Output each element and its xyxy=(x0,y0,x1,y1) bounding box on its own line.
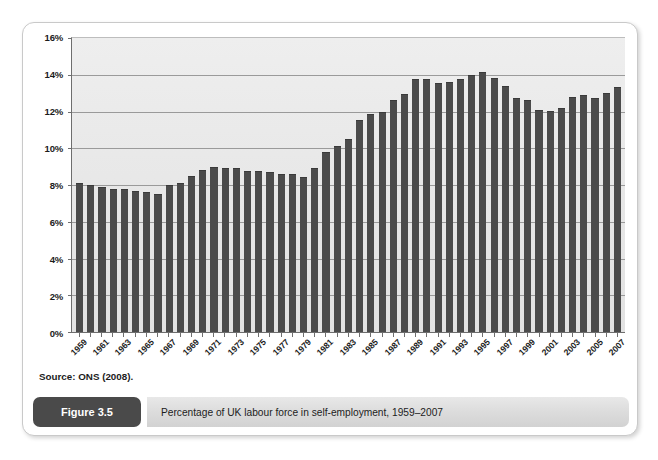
bar-slot xyxy=(489,38,500,332)
bar-slot xyxy=(231,38,242,332)
bar xyxy=(591,98,598,332)
bar-slot xyxy=(365,38,376,332)
x-axis-tick-mark xyxy=(572,333,573,337)
y-axis-tick-label: 16% xyxy=(45,32,63,43)
x-axis-tick-mark xyxy=(527,333,528,337)
x-axis-slot: 2001 xyxy=(544,333,555,379)
bar xyxy=(547,111,554,332)
bar xyxy=(345,139,352,332)
x-axis-slot: 1995 xyxy=(477,333,488,379)
x-axis-tick-mark xyxy=(550,333,551,337)
bar xyxy=(222,168,229,332)
x-axis-tick-mark xyxy=(426,333,427,337)
x-axis-tick-mark xyxy=(460,333,461,337)
x-axis-slot: 1977 xyxy=(275,333,286,379)
x-axis-tick-mark xyxy=(146,333,147,337)
x-axis-slot: 1999 xyxy=(522,333,533,379)
figure-page: 0%2%4%6%8%10%12%14%16% 19591961196319651… xyxy=(0,0,658,460)
bar xyxy=(356,120,363,332)
x-axis-tick-mark xyxy=(314,333,315,337)
figure-number-badge: Figure 3.5 xyxy=(33,397,141,427)
bar xyxy=(423,79,430,332)
bar xyxy=(524,100,531,332)
bar xyxy=(379,112,386,333)
x-axis-slot xyxy=(466,333,477,379)
y-axis-tick-label: 4% xyxy=(50,254,63,265)
bar xyxy=(401,94,408,332)
bar-slot xyxy=(533,38,544,332)
x-axis-slot: 1987 xyxy=(387,333,398,379)
bar-slot xyxy=(500,38,511,332)
bar-slot xyxy=(220,38,231,332)
y-axis: 0%2%4%6%8%10%12%14%16% xyxy=(31,37,67,333)
bar-slot xyxy=(567,38,578,332)
bar xyxy=(468,75,475,332)
bar xyxy=(457,79,464,332)
bar-slot xyxy=(242,38,253,332)
x-axis-slot xyxy=(398,333,409,379)
bar-slot xyxy=(264,38,275,332)
x-axis-slot xyxy=(421,333,432,379)
bar xyxy=(132,191,139,332)
x-axis-tick-mark xyxy=(404,333,405,337)
x-axis-tick-mark xyxy=(101,333,102,337)
bar-slot xyxy=(433,38,444,332)
bar-slot xyxy=(556,38,567,332)
bar-slot xyxy=(119,38,130,332)
x-axis-slot: 1979 xyxy=(297,333,308,379)
x-axis-tick-mark xyxy=(370,333,371,337)
x-axis-tick-mark xyxy=(112,333,113,337)
x-axis-slot xyxy=(578,333,589,379)
bar-slot xyxy=(85,38,96,332)
bar-slot xyxy=(511,38,522,332)
x-axis-tick-mark xyxy=(258,333,259,337)
bar xyxy=(266,172,273,332)
x-axis-slot xyxy=(241,333,252,379)
bar-slot xyxy=(152,38,163,332)
bar-slot xyxy=(164,38,175,332)
x-axis-tick-mark xyxy=(202,333,203,337)
x-axis-tick-mark xyxy=(135,333,136,337)
bar-slot xyxy=(466,38,477,332)
bar xyxy=(435,83,442,332)
bar-series xyxy=(72,38,625,332)
x-axis-slot: 1965 xyxy=(140,333,151,379)
x-axis-tick-mark xyxy=(471,333,472,337)
x-axis-tick-mark xyxy=(123,333,124,337)
x-axis-slot xyxy=(511,333,522,379)
bar-slot xyxy=(276,38,287,332)
figure-caption: Percentage of UK labour force in self-em… xyxy=(161,407,443,418)
bar xyxy=(110,189,117,332)
bar xyxy=(199,170,206,332)
x-axis-tick-mark xyxy=(325,333,326,337)
bar-slot xyxy=(455,38,466,332)
x-axis-slot xyxy=(555,333,566,379)
chart-block: 0%2%4%6%8%10%12%14%16% 19591961196319651… xyxy=(31,31,631,349)
bar-slot xyxy=(175,38,186,332)
x-axis-slot xyxy=(286,333,297,379)
bar xyxy=(300,177,307,332)
figure-card: 0%2%4%6%8%10%12%14%16% 19591961196319651… xyxy=(22,22,638,436)
bar-slot xyxy=(197,38,208,332)
bar-slot xyxy=(108,38,119,332)
bar-slot xyxy=(253,38,264,332)
bar xyxy=(535,110,542,332)
bar xyxy=(412,79,419,332)
x-axis-slot: 2005 xyxy=(589,333,600,379)
bar xyxy=(98,187,105,332)
bar xyxy=(166,185,173,332)
x-axis-slot xyxy=(196,333,207,379)
x-axis-slot xyxy=(353,333,364,379)
bar xyxy=(390,100,397,332)
bar-slot xyxy=(309,38,320,332)
x-axis-slot xyxy=(488,333,499,379)
x-axis-tick-mark xyxy=(359,333,360,337)
x-axis-tick-mark xyxy=(292,333,293,337)
x-axis-slot xyxy=(331,333,342,379)
bar xyxy=(569,97,576,332)
y-axis-tick-label: 12% xyxy=(45,106,63,117)
bar xyxy=(311,168,318,332)
x-axis-tick-mark xyxy=(449,333,450,337)
bar-slot xyxy=(522,38,533,332)
bar-slot xyxy=(477,38,488,332)
